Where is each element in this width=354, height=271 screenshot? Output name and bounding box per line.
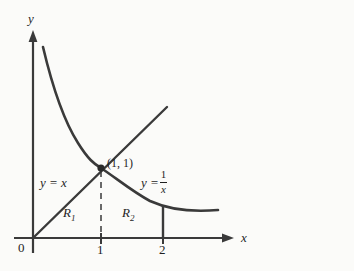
y-axis-label: y (28, 12, 34, 25)
curve-reciprocal (43, 47, 218, 211)
intersection-dot (97, 164, 104, 171)
fraction-one-over-x: 1x (160, 169, 168, 195)
equation-curve-label: y =1x (141, 169, 168, 195)
equation-line-label: y = x (40, 176, 67, 189)
origin-label: 0 (18, 241, 25, 254)
region-r2-base: R (122, 205, 130, 220)
intersection-point-label: (1, 1) (107, 157, 133, 169)
region-label-r1: R1 (63, 206, 75, 223)
region-r1-base: R (63, 205, 71, 220)
y-axis (29, 30, 38, 253)
x-tick-label-1: 1 (97, 243, 104, 256)
region-label-r2: R2 (122, 206, 134, 223)
region-r2-subscript: 2 (130, 213, 135, 223)
fraction-denominator: x (160, 184, 168, 196)
x-axis (14, 234, 234, 243)
x-tick-label-2: 2 (159, 243, 166, 256)
figure-canvas: y x 0 1 2 y = x y =1x (1, 1) R1 R2 (0, 0, 354, 271)
graph-svg (0, 0, 354, 271)
region-r1-subscript: 1 (71, 213, 76, 223)
fraction-numerator: 1 (160, 169, 168, 181)
equation-curve-lhs: y = (141, 175, 159, 190)
x-axis-label: x (241, 231, 247, 244)
